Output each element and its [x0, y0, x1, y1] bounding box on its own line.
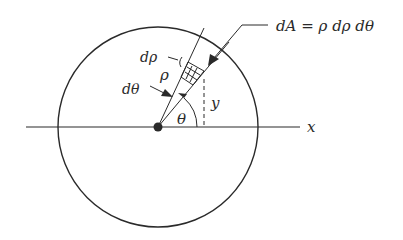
diagram-canvas: dA = ρ dρ dθ dρ ρ dθ θ y x — [0, 0, 403, 240]
d-rho-leader-line — [168, 57, 178, 60]
d-theta-arrowhead-icon — [161, 89, 173, 97]
x-axis-label: x — [307, 118, 316, 136]
d-theta-leader-line — [150, 86, 164, 93]
d-theta-label: dθ — [122, 81, 140, 97]
dA-leader-line — [214, 25, 268, 58]
d-rho-bracket — [180, 57, 182, 67]
d-rho-label: dρ — [140, 49, 158, 65]
rho-label: ρ — [159, 66, 169, 84]
theta-label: θ — [177, 110, 186, 128]
area-element — [181, 62, 204, 85]
y-label: y — [210, 94, 220, 112]
dA-equation-label: dA = ρ dρ dθ — [276, 17, 374, 35]
